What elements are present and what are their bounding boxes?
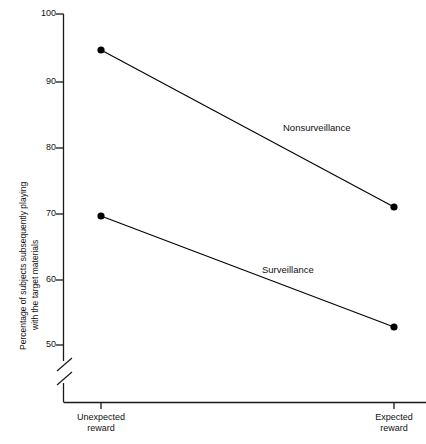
- data-point-surveillance-unexpected-reward: [97, 212, 104, 219]
- series-line-surveillance: [101, 216, 394, 327]
- series-label-nonsurveillance: Nonsurveillance: [283, 123, 351, 133]
- x-tick-label-unexpected-reward-line-1: Unexpected: [61, 412, 141, 423]
- series-label-surveillance: Surveillance: [262, 265, 314, 275]
- x-tick-label-expected-reward-line-2: reward: [354, 423, 426, 434]
- data-point-surveillance-expected-reward: [390, 323, 397, 330]
- chart-canvas: [0, 0, 426, 444]
- x-tick-label-expected-reward: Expected reward: [354, 412, 426, 434]
- x-tick-label-unexpected-reward-line-2: reward: [61, 423, 141, 434]
- x-tick-label-expected-reward-line-1: Expected: [354, 412, 426, 423]
- data-point-nonsurveillance-unexpected-reward: [97, 46, 104, 53]
- axis-break-slash-lower: [57, 372, 72, 385]
- axis-break-slash-upper: [57, 358, 72, 371]
- data-point-nonsurveillance-expected-reward: [390, 203, 397, 210]
- chart-figure: Percentage of subjects subsequently play…: [0, 0, 426, 444]
- x-tick-label-unexpected-reward: Unexpected reward: [61, 412, 141, 434]
